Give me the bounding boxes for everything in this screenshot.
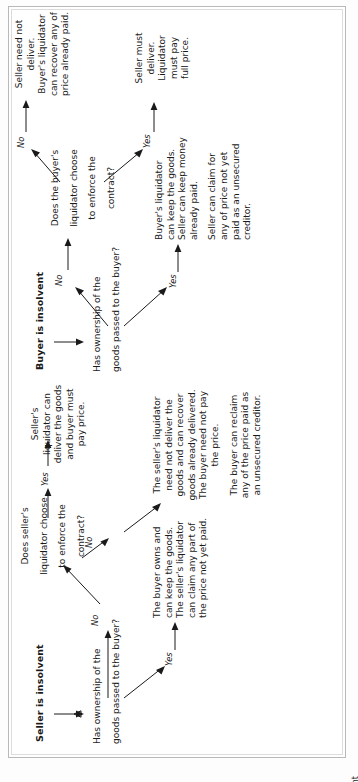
buyer-second-question-l2: liquidator choose [69,140,81,236]
seller-yes-outcome-text: The buyer owns andcan keep the goods.The… [152,492,210,618]
buyer-root-question-line2: goods passed to the buyer? [111,242,123,372]
seller-second-yes-outcome-text: Seller'sliquidator candeliver the goodsa… [30,384,88,464]
seller-branch-no-label: No [90,615,100,626]
seller-root-question-line1: Has ownership of the [92,614,104,744]
buyer-second-question: Does the buyer's liquidator choose to en… [50,140,117,236]
buyer-second-yes-outcome: Seller mustdeliver.Liquidatormust payful… [134,20,192,96]
buyer-yes-outcome: Buyer's liquidatorcan keep the goods.Sel… [154,112,254,240]
seller-heading: Seller is insolvent [34,644,45,742]
buyer-second-yes-label: Yes [142,134,152,148]
buyer-second-question-l4: contract? [106,140,118,236]
buyer-heading: Buyer is insolvent [34,272,45,370]
seller-yes-outcome: The buyer owns andcan keep the goods.The… [152,492,210,618]
buyer-second-no-outcome-text: Seller need notdeliver.Buyer's liquidato… [14,10,72,98]
seller-second-no-outcome: The seller's liquidatorneed not deliver … [152,382,263,508]
buyer-second-question-l1: Does the buyer's [50,140,62,236]
rotated-figure-wrapper: Seller is insolvent Has ownership of the… [8,6,346,758]
figure-caption: Figure 7.2 The position where the buyer … [350,776,358,782]
seller-second-question-l3: to enforce the [57,488,69,584]
buyer-branch-yes-label: Yes [168,274,178,288]
buyer-second-no-label: No [16,137,26,148]
seller-branch-yes-label: Yes [164,652,174,666]
seller-root-question: Has ownership of the goods passed to the… [92,614,122,744]
buyer-second-question-l3: to enforce the [87,140,99,236]
figure-page: Seller is insolvent Has ownership of the… [0,0,358,782]
seller-second-question-l2: liquidator choose [39,488,51,584]
seller-insolvent-section: Seller is insolvent Has ownership of the… [12,382,342,754]
seller-second-no-outcome-b: The buyer can reclaimany of the price pa… [229,382,264,508]
seller-second-no-outcome-a: The seller's liquidatorneed not deliver … [152,382,222,508]
seller-second-yes-outcome: Seller'sliquidator candeliver the goodsa… [30,384,88,464]
buyer-branch-no-label: No [54,275,64,286]
buyer-second-yes-outcome-text: Seller mustdeliver.Liquidatormust payful… [134,20,192,96]
seller-second-no-label: No [84,537,94,548]
buyer-yes-outcome-a: Buyer's liquidatorcan keep the goods.Sel… [154,112,200,240]
buyer-root-question-line1: Has ownership of the [92,242,104,372]
figure-caption-text: The position where the buyer or seller h… [350,776,358,782]
seller-second-question-l1: Does seller's [20,488,32,584]
buyer-insolvent-section: Buyer is insolvent Has ownership of the … [12,10,342,382]
buyer-root-question: Has ownership of the goods passed to the… [92,242,122,372]
seller-second-yes-label: Yes [40,472,50,486]
flowchart-canvas: Seller is insolvent Has ownership of the… [12,10,342,754]
seller-second-question: Does seller's liquidator choose to enfor… [20,488,87,584]
seller-root-question-line2: goods passed to the buyer? [111,614,123,744]
buyer-second-no-outcome: Seller need notdeliver.Buyer's liquidato… [14,10,72,98]
buyer-yes-outcome-b: Seller can claim forany of price not yet… [207,112,253,240]
